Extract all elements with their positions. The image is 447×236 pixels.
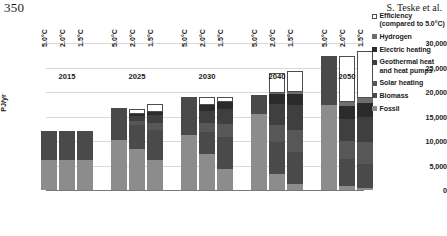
bar-segment: [269, 142, 285, 174]
bar-segment: [129, 125, 145, 150]
bar-segment: [111, 108, 127, 139]
bar-2030-5-0°C: [181, 97, 197, 190]
bar-segment: [251, 114, 267, 190]
bar-segment: [287, 152, 303, 184]
page-number: 350: [4, 0, 24, 16]
bar-segment: [339, 106, 355, 119]
bar-segment: [199, 123, 215, 132]
y-axis-tick-label: 5,000: [403, 161, 447, 170]
x-axis-category-label: 5.0°C: [181, 29, 197, 47]
bar-segment: [287, 94, 303, 105]
bar-segment: [111, 140, 127, 190]
chart-legend: Efficiency (compared to 5.0°C)HydrogenEl…: [372, 12, 447, 117]
bar-segment: [77, 131, 93, 160]
legend-swatch-icon: [372, 81, 377, 86]
bar-segment: [217, 137, 233, 169]
legend-item: Solar heating: [372, 79, 447, 87]
legend-item: Hydrogen: [372, 33, 447, 41]
legend-label: Geothermal heat and heat pumps: [380, 58, 447, 74]
bar-2015-1-5°C: [77, 131, 93, 190]
x-axis-category-label: 2.0°C: [59, 29, 75, 47]
bar-segment: [147, 115, 163, 123]
bar-segment: [269, 104, 285, 125]
bar-segment: [287, 105, 303, 130]
bar-2025-1-5°C: [147, 104, 163, 190]
legend-item: Efficiency (compared to 5.0°C): [372, 12, 447, 28]
bar-segment: [59, 131, 75, 160]
x-axis-category-label: 5.0°C: [321, 29, 337, 47]
legend-swatch-icon: [372, 14, 377, 19]
legend-swatch-icon: [372, 93, 377, 98]
legend-item: Biomass: [372, 92, 447, 100]
bar-segment: [269, 125, 285, 142]
legend-swatch-icon: [372, 60, 377, 65]
bar-segment: [181, 135, 197, 190]
bar-segment: [357, 117, 373, 142]
bar-segment: [77, 160, 93, 190]
y-axis-tick-label: 0: [403, 186, 447, 195]
bar-segment: [217, 124, 233, 137]
bar-2015-5-0°C: [41, 131, 57, 190]
legend-swatch-icon: [372, 47, 377, 52]
x-axis-group-label: 2030: [167, 72, 247, 81]
bar-segment: [269, 174, 285, 190]
y-axis-tick-label: 10,000: [403, 137, 447, 146]
x-axis-category-label: 2.0°C: [199, 29, 215, 47]
bar-segment: [357, 103, 373, 117]
bar-2030-1-5°C: [217, 97, 233, 190]
bar-2030-2-0°C: [199, 97, 215, 190]
x-axis-category-label: 5.0°C: [41, 29, 57, 47]
legend-item: Fossil: [372, 105, 447, 113]
bar-segment: [199, 132, 215, 154]
x-axis-category-label: 2.0°C: [269, 29, 285, 47]
x-axis-category-label: 1.5°C: [217, 29, 233, 47]
legend-label: Hydrogen: [380, 33, 412, 41]
bar-segment: [199, 97, 215, 105]
legend-label: Fossil: [380, 105, 400, 113]
legend-swatch-icon: [372, 106, 377, 111]
legend-label: Biomass: [380, 92, 409, 100]
bar-segment: [287, 130, 303, 152]
bar-segment: [357, 142, 373, 164]
bar-2015-2-0°C: [59, 131, 75, 190]
bar-segment: [217, 102, 233, 109]
bar-segment: [41, 160, 57, 190]
x-axis-group-label: 2025: [97, 72, 177, 81]
plot-area: [46, 43, 364, 190]
x-axis-category-label: 1.5°C: [357, 29, 373, 47]
bar-segment: [41, 131, 57, 160]
bar-2025-5-0°C: [111, 108, 127, 190]
x-axis-group-label: 2015: [27, 72, 107, 81]
bar-segment: [269, 94, 285, 104]
x-axis-category-label: 1.5°C: [147, 29, 163, 47]
x-axis-category-label: 5.0°C: [251, 29, 267, 47]
bar-segment: [217, 109, 233, 124]
gridline: [46, 92, 364, 93]
x-axis-line: [46, 190, 364, 191]
legend-label: Efficiency (compared to 5.0°C): [380, 12, 447, 28]
bar-segment: [251, 95, 267, 113]
x-axis-category-label: 1.5°C: [287, 29, 303, 47]
legend-label: Electric heating: [380, 46, 431, 54]
bar-segment: [217, 169, 233, 190]
bar-segment: [147, 123, 163, 130]
bar-2040-1-5°C: [287, 71, 303, 190]
bar-segment: [181, 97, 197, 135]
bar-segment: [339, 119, 355, 141]
legend-item: Geothermal heat and heat pumps: [372, 58, 447, 74]
bar-segment: [357, 164, 373, 189]
bar-segment: [339, 141, 355, 159]
bar-segment: [339, 159, 355, 186]
x-axis-category-label: 5.0°C: [111, 29, 127, 47]
bar-2040-5-0°C: [251, 95, 267, 190]
bar-segment: [129, 149, 145, 190]
x-axis-category-label: 2.0°C: [129, 29, 145, 47]
bar-segment: [199, 154, 215, 190]
bar-segment: [147, 104, 163, 111]
gridline: [46, 68, 364, 69]
y-axis-label: PJ/yr: [0, 94, 8, 112]
bar-segment: [321, 105, 337, 190]
bar-segment: [199, 111, 215, 123]
x-axis-category-label: 2.0°C: [339, 29, 355, 47]
legend-label: Solar heating: [380, 79, 424, 87]
